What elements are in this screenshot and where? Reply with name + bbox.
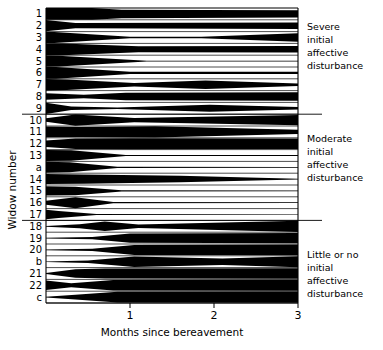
x-axis-title: Months since bereavement bbox=[101, 326, 244, 338]
x-tick-label-1: 1 bbox=[127, 309, 134, 322]
annotation-little-line-1: Little or no bbox=[307, 249, 359, 260]
kite-band bbox=[46, 150, 298, 161]
row-label-c: c bbox=[37, 292, 43, 303]
annotation-moderate-line-2: initial bbox=[307, 146, 333, 157]
annotation-moderate-line-4: disturbance bbox=[307, 172, 363, 183]
kite-band bbox=[46, 233, 298, 243]
kite-band bbox=[46, 268, 298, 278]
row-label-12: 12 bbox=[29, 138, 42, 149]
kite-band bbox=[46, 126, 298, 137]
x-tick-label-2: 2 bbox=[211, 309, 218, 322]
annotation-severe-line-3: affective bbox=[307, 47, 348, 58]
annotation-severe-line-2: initial bbox=[307, 34, 333, 45]
kite-band bbox=[46, 138, 298, 149]
annotation-severe-line-4: disturbance bbox=[307, 60, 363, 71]
annotations: SevereinitialaffectivedisturbanceModerat… bbox=[307, 21, 363, 299]
row-label-19: 19 bbox=[29, 233, 42, 244]
row-label-8: 8 bbox=[36, 91, 42, 102]
row-label-18: 18 bbox=[29, 221, 42, 232]
annotation-little-line-4: disturbance bbox=[307, 288, 363, 299]
kite-band bbox=[46, 79, 298, 91]
kite-band bbox=[46, 67, 298, 79]
kite-band bbox=[46, 256, 298, 267]
row-labels: 12345678910111213a14151617181920b2122c bbox=[29, 8, 42, 302]
row-label-16: 16 bbox=[29, 197, 42, 208]
kite-band bbox=[46, 8, 298, 20]
kite-band bbox=[46, 162, 298, 173]
kite-band bbox=[46, 280, 298, 291]
annotation-severe-line-1: Severe bbox=[307, 21, 340, 32]
kite-band bbox=[46, 20, 298, 31]
row-label-10: 10 bbox=[29, 115, 42, 126]
kite-band bbox=[46, 103, 298, 114]
row-label-21: 21 bbox=[29, 268, 42, 279]
row-label-9: 9 bbox=[36, 103, 42, 114]
annotation-little-line-2: initial bbox=[307, 262, 333, 273]
y-axis-title: Widow number bbox=[6, 150, 18, 230]
row-label-15: 15 bbox=[29, 185, 42, 196]
kite-diagram-figure: 12345678910111213a14151617181920b2122c 1… bbox=[0, 0, 383, 350]
row-label-17: 17 bbox=[29, 209, 42, 220]
kite-band bbox=[46, 210, 298, 219]
plot-bands bbox=[46, 8, 298, 303]
kite-band bbox=[46, 244, 298, 255]
kite-band bbox=[46, 197, 298, 208]
kite-band bbox=[46, 32, 298, 43]
row-label-a: a bbox=[36, 162, 42, 173]
annotation-moderate-line-1: Moderate bbox=[307, 133, 352, 144]
kite-band bbox=[46, 55, 298, 66]
row-label-11: 11 bbox=[29, 126, 42, 137]
row-label-2: 2 bbox=[36, 20, 42, 31]
kite-band bbox=[46, 221, 298, 232]
kite-band bbox=[46, 291, 298, 302]
row-label-4: 4 bbox=[36, 44, 42, 55]
row-label-7: 7 bbox=[36, 79, 42, 90]
row-label-6: 6 bbox=[36, 67, 42, 78]
row-label-5: 5 bbox=[36, 56, 42, 67]
annotation-moderate-line-3: affective bbox=[307, 159, 348, 170]
kite-band bbox=[46, 43, 298, 55]
annotation-little-line-3: affective bbox=[307, 275, 348, 286]
kite-band bbox=[46, 114, 298, 125]
row-label-22: 22 bbox=[29, 280, 42, 291]
x-tick-labels: 123 bbox=[127, 309, 302, 322]
row-label-20: 20 bbox=[29, 244, 42, 255]
x-tick-label-3: 3 bbox=[295, 309, 302, 322]
kite-band bbox=[46, 174, 298, 184]
row-label-1: 1 bbox=[36, 8, 42, 19]
kite-band bbox=[46, 92, 298, 100]
kite-band bbox=[46, 186, 298, 195]
row-label-3: 3 bbox=[36, 32, 42, 43]
row-label-b: b bbox=[36, 256, 42, 267]
row-label-14: 14 bbox=[29, 174, 42, 185]
chart-svg: 12345678910111213a14151617181920b2122c 1… bbox=[0, 0, 383, 350]
row-label-13: 13 bbox=[29, 150, 42, 161]
